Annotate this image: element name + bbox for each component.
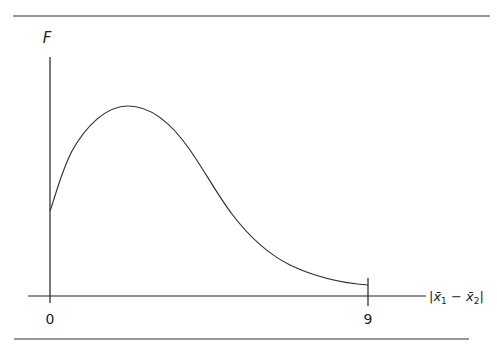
x-axis-label: |x̄1 − x̄2| xyxy=(429,289,484,306)
x-label-part: − x̄ xyxy=(447,289,474,304)
x-label-part: |x̄ xyxy=(429,289,441,304)
x-tick-label-0: 0 xyxy=(46,311,55,327)
y-axis-label: F xyxy=(43,29,52,47)
f-curve xyxy=(50,106,368,285)
figure-canvas: F 0 9 |x̄1 − x̄2| xyxy=(0,0,497,351)
x-tick-label-9: 9 xyxy=(364,311,373,327)
x-label-part: | xyxy=(479,289,483,304)
